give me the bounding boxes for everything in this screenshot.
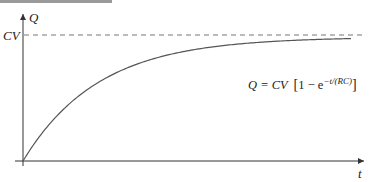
svg-text:Q = CV [1 − e−t/(RC)]: Q = CV [1 − e−t/(RC)]: [248, 76, 357, 92]
y-axis-label: Q: [29, 10, 39, 25]
x-axis-label: t: [358, 166, 362, 181]
charging-curve-chart: Q CV t Q = CV [1 − e−t/(RC)]: [0, 0, 373, 182]
formula: Q = CV [1 − e−t/(RC)]: [248, 76, 357, 92]
charge-curve: [23, 39, 351, 161]
asymptote-label: CV: [3, 28, 22, 43]
